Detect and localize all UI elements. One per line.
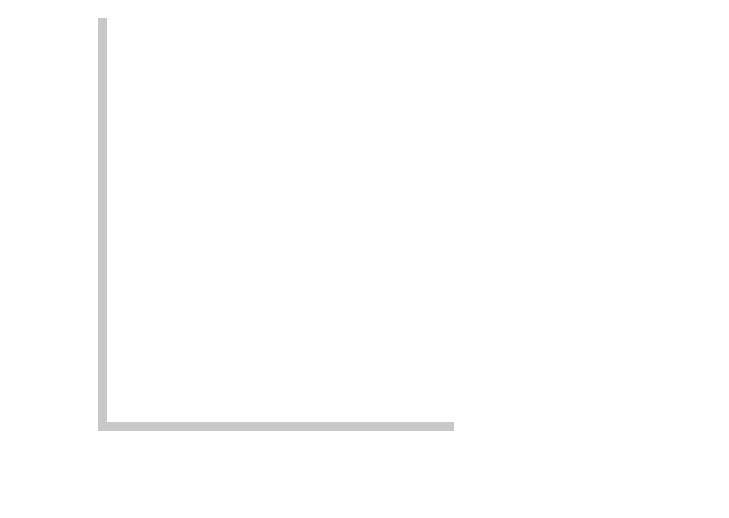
y-axis <box>98 18 107 430</box>
is-lm-diagram <box>0 0 729 518</box>
